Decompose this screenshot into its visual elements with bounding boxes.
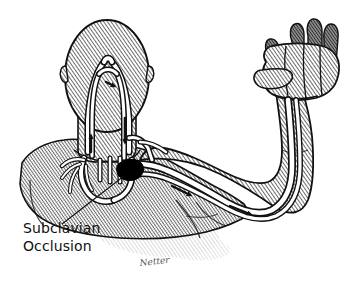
illustration-canvas: Subclavian Occlusion Netter: [0, 0, 353, 286]
subclavian-steal-illustration: Subclavian Occlusion Netter: [0, 0, 353, 286]
occlusion-label-line2: Occlusion: [23, 238, 92, 254]
subclavian-occlusion-marker: [117, 159, 144, 180]
occlusion-label-line1: Subclavian: [23, 220, 100, 236]
left-ear: [60, 66, 68, 82]
right-ear: [146, 66, 154, 82]
